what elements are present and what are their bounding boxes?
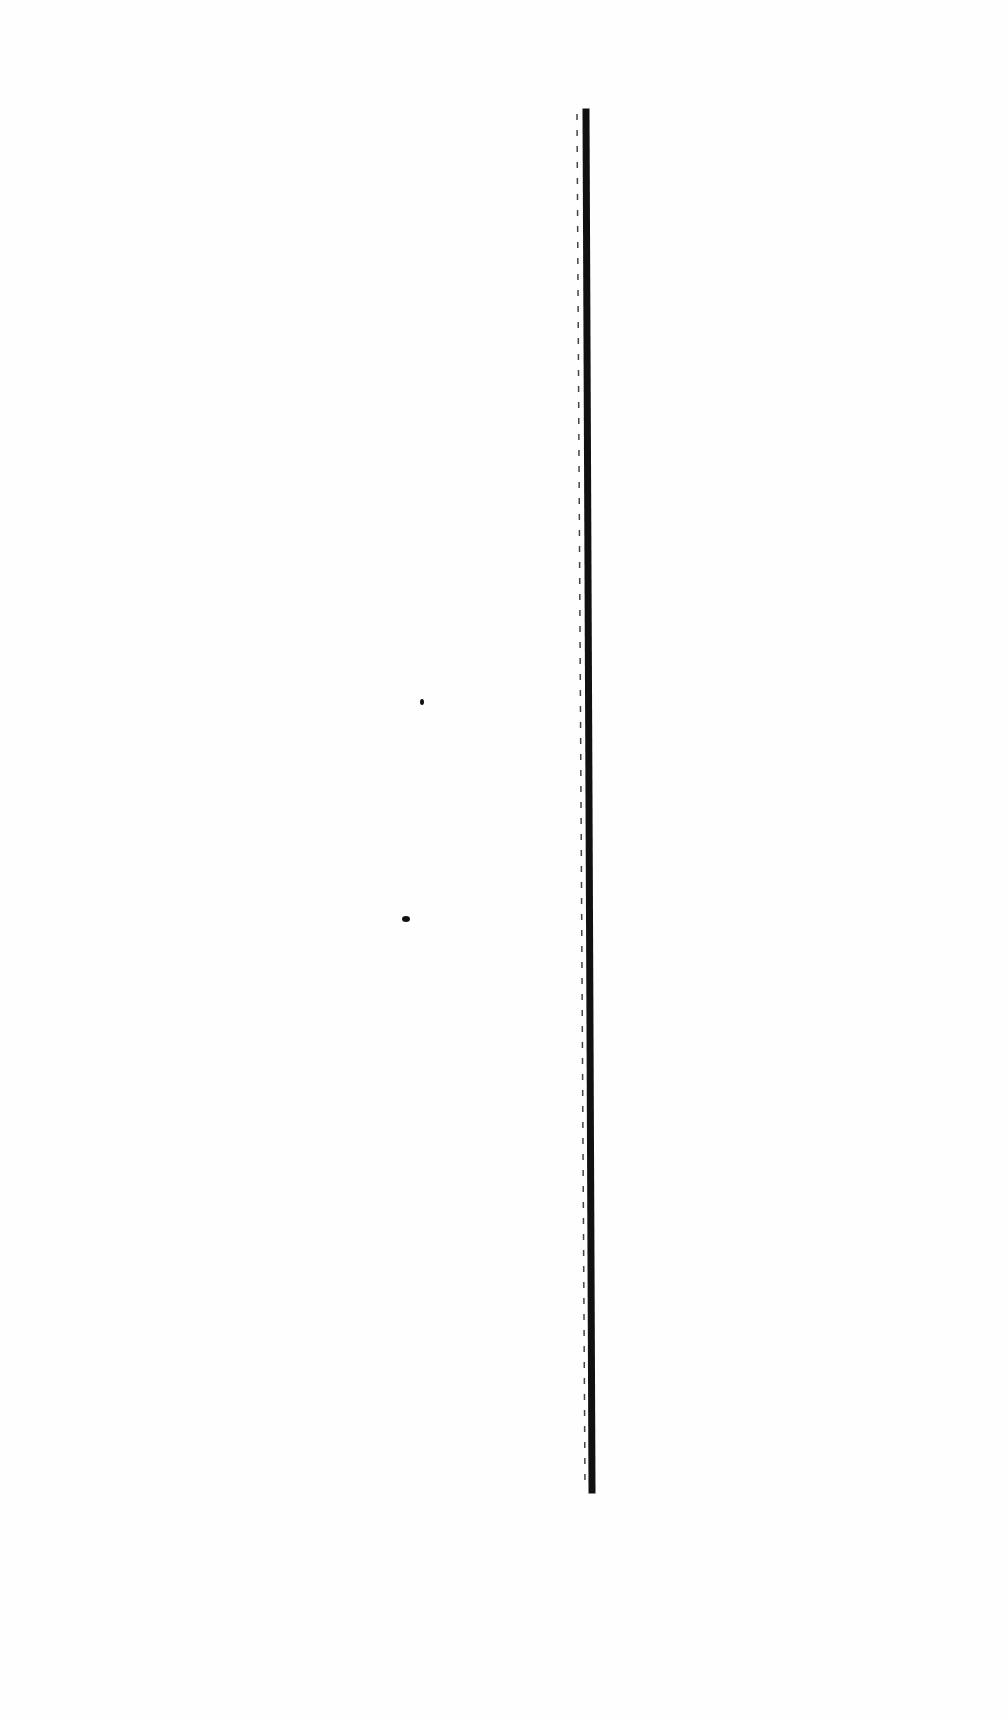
vertical-rule-line [586, 112, 592, 1490]
page-marks [0, 0, 1007, 1721]
ink-speck [420, 699, 424, 705]
ink-speck [402, 916, 410, 922]
scanned-page [0, 0, 1007, 1721]
ink-specks [402, 699, 424, 922]
